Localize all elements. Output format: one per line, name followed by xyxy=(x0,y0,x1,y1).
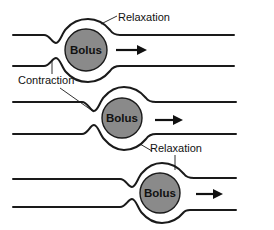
bolus-2-label: Bolus xyxy=(106,112,138,124)
relaxation-top-leader xyxy=(101,16,117,24)
bolus-1-label: Bolus xyxy=(70,44,102,56)
contraction-label: Contraction xyxy=(18,74,74,86)
right-arrow-icon xyxy=(155,115,183,125)
stage-2: Bolus xyxy=(13,87,236,150)
stage-3: Bolus xyxy=(13,163,236,223)
stage-1: Bolus xyxy=(13,19,234,82)
stage-3-upper-wall xyxy=(13,163,236,187)
relaxation-bottom-label: Relaxation xyxy=(150,142,202,154)
stage-3-lower-wall xyxy=(13,199,236,223)
relaxation-top-label: Relaxation xyxy=(118,11,170,23)
contraction-leader-2 xyxy=(60,88,94,112)
bolus-3-label: Bolus xyxy=(144,187,176,199)
right-arrow-icon xyxy=(116,45,147,55)
peristalsis-diagram: Bolus Relaxation Contraction Bolus Relax… xyxy=(0,0,274,230)
right-arrow-icon xyxy=(196,189,223,199)
